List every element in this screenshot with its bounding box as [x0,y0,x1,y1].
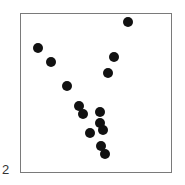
data-point [109,52,119,62]
data-point [46,57,56,67]
data-point [85,128,95,138]
data-point [62,81,72,91]
data-point [78,109,88,119]
panel-label: 2 [2,163,9,177]
data-point [98,125,108,135]
data-point [123,17,133,27]
data-point [103,68,113,78]
scatter-plot [0,0,185,185]
data-point [100,149,110,159]
data-point [95,107,105,117]
data-point [33,43,43,53]
